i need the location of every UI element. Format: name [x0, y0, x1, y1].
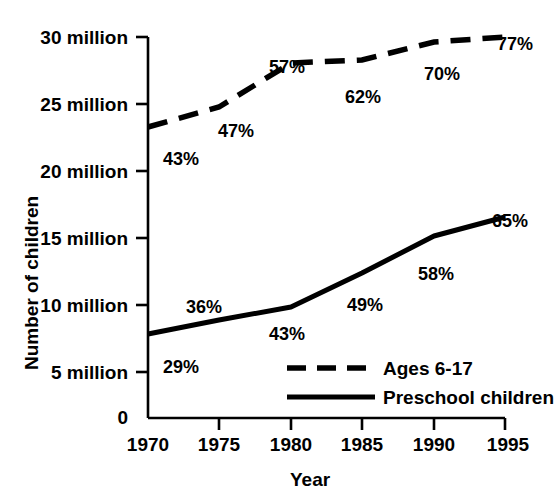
y-tick-label-20m: 20 million	[18, 162, 128, 181]
annotation-upper-1970: 43%	[163, 150, 199, 168]
annotation-upper-1985: 62%	[345, 88, 381, 106]
x-tick-label-1975: 1975	[184, 435, 254, 454]
x-tick-label-1990: 1990	[399, 435, 469, 454]
annotation-upper-1990: 70%	[424, 65, 460, 83]
y-tick-label-30m: 30 million	[18, 28, 128, 47]
annotation-upper-1975: 47%	[218, 122, 254, 140]
x-tick-label-1970: 1970	[113, 435, 183, 454]
annotation-lower-1975: 36%	[186, 298, 222, 316]
y-tick-label-25m: 25 million	[18, 95, 128, 114]
x-tick-label-1980: 1980	[256, 435, 326, 454]
y-tick-label-0: 0	[18, 408, 128, 427]
annotation-lower-1970: 29%	[163, 358, 199, 376]
y-axis-title: Number of children	[22, 196, 41, 370]
y-axis-ticks	[136, 37, 148, 372]
annotation-upper-1995: 77%	[497, 35, 533, 53]
annotation-lower-1985: 49%	[347, 296, 383, 314]
annotation-lower-1995: 65%	[492, 212, 528, 230]
legend-label-ages-6-17: Ages 6-17	[383, 359, 473, 378]
annotation-upper-1980: 57%	[269, 58, 305, 76]
x-tick-label-1985: 1985	[327, 435, 397, 454]
x-axis-ticks	[219, 418, 505, 430]
annotation-lower-1980: 43%	[269, 325, 305, 343]
x-axis-title: Year	[290, 470, 330, 489]
legend-label-preschool-children: Preschool children	[383, 388, 554, 407]
x-tick-label-1995: 1995	[473, 435, 543, 454]
annotation-lower-1990: 58%	[418, 265, 454, 283]
